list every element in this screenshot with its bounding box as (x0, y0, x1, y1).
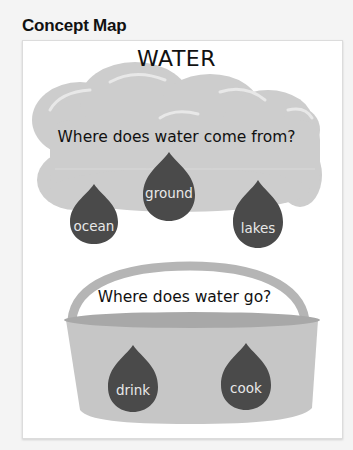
answer-drink: drink (93, 382, 173, 398)
bucket-icon (66, 320, 318, 424)
bucket-rim (64, 312, 320, 328)
use-question: Where does water go? (8, 288, 353, 306)
source-question: Where does water come from? (0, 128, 353, 146)
map-title: WATER (0, 46, 353, 71)
answer-cook: cook (206, 380, 286, 396)
answer-ground: ground (129, 185, 209, 201)
answer-lakes: lakes (218, 220, 298, 236)
answer-ocean: ocean (54, 218, 134, 234)
